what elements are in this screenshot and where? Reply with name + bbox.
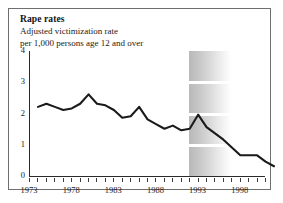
band-gridline-stripe	[189, 144, 231, 147]
y-axis-tick-label: 3	[15, 77, 25, 85]
x-axis-tick-mark	[122, 178, 123, 182]
x-axis-tick-mark	[155, 178, 156, 182]
x-axis-tick-mark	[37, 178, 38, 182]
x-axis-tick-mark	[206, 178, 207, 182]
band-gridline-stripe	[189, 113, 231, 116]
x-axis-tick-label: 1993	[189, 185, 206, 195]
x-axis-tick-mark	[240, 178, 241, 182]
x-axis-tick-mark	[96, 178, 97, 182]
x-axis-tick-mark	[181, 178, 182, 182]
x-axis-tick-mark	[139, 178, 140, 182]
x-axis-tick-label: 1973	[21, 185, 38, 195]
y-axis-tick-label: 1	[15, 140, 25, 148]
x-axis-tick-mark	[147, 178, 148, 182]
x-axis-tick-mark	[130, 178, 131, 182]
band-gridline-stripe	[189, 81, 231, 84]
x-axis-tick-mark	[46, 178, 47, 182]
shaded-transition-band	[189, 51, 231, 176]
x-axis-tick-label: 1983	[105, 185, 122, 195]
chart-title: Rape rates	[20, 14, 65, 24]
x-axis-tick-mark	[88, 178, 89, 182]
x-axis-tick-mark	[164, 178, 165, 182]
x-axis-tick-mark	[29, 178, 30, 182]
chart-subtitle-line-1: Adjusted victimization rate	[20, 26, 118, 36]
x-axis-tick-mark	[189, 178, 190, 182]
x-axis-tick-mark	[113, 178, 114, 182]
x-axis-tick-mark	[231, 178, 232, 182]
x-axis-tick-mark	[54, 178, 55, 182]
x-axis-tick-label: 1998	[231, 185, 248, 195]
x-axis-tick-mark	[214, 178, 215, 182]
chart-subtitle-line-2: per 1,000 persons age 12 and over	[20, 38, 143, 48]
x-axis-line	[29, 176, 265, 177]
x-axis-tick-mark	[265, 178, 266, 182]
x-axis-tick-mark	[223, 178, 224, 182]
x-axis-tick-label: 1988	[147, 185, 164, 195]
y-axis-tick-label: 4	[15, 46, 25, 54]
x-axis-tick-mark	[63, 178, 64, 182]
x-axis-tick-mark	[71, 178, 72, 182]
x-axis-tick-mark	[248, 178, 249, 182]
y-axis-tick-label: 0	[15, 171, 25, 179]
y-axis-line	[29, 51, 30, 177]
chart-figure-frame: Rape rates Adjusted victimization rate p…	[8, 8, 271, 190]
x-axis-tick-mark	[80, 178, 81, 182]
y-axis-tick-label: 2	[15, 109, 25, 117]
x-axis-tick-mark	[172, 178, 173, 182]
x-axis-tick-label: 1978	[63, 185, 80, 195]
x-axis-tick-mark	[105, 178, 106, 182]
x-axis-tick-mark	[257, 178, 258, 182]
x-axis-tick-mark	[198, 178, 199, 182]
